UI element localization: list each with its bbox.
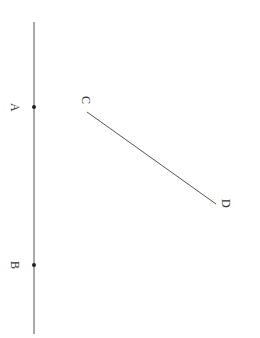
segment-cd: [87, 112, 216, 204]
label-b: B: [8, 261, 22, 269]
label-c: C: [79, 96, 93, 104]
label-a: A: [8, 103, 22, 112]
point-b: [32, 263, 36, 267]
point-a: [32, 105, 36, 109]
geometry-diagram: A B C D: [0, 0, 260, 338]
label-d: D: [219, 199, 233, 208]
